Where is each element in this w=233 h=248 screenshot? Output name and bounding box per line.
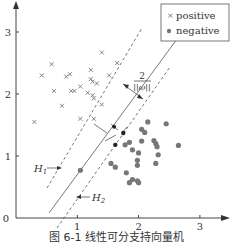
margin-denominator: ||ω||	[133, 83, 150, 92]
negative-point	[113, 165, 118, 170]
negative-point	[164, 121, 169, 126]
h1-line	[47, 28, 142, 188]
negative-point	[154, 144, 159, 149]
support-vector-negative	[113, 143, 117, 147]
legend: × positive negative	[161, 4, 229, 41]
sv-perp-1	[94, 124, 107, 133]
negative-point	[142, 130, 147, 135]
legend-dot-marker-icon	[167, 29, 171, 33]
support-vector-negative	[121, 131, 125, 135]
y-tick-label: 2	[5, 89, 11, 100]
negative-point	[145, 119, 150, 124]
negative-point	[156, 152, 161, 157]
negative-point	[139, 139, 144, 144]
svm-chart: 1231230 H1 H2 2 ||ω|| × positive negativ…	[0, 0, 233, 230]
legend-x-marker-icon: ×	[167, 11, 174, 20]
negative-point	[123, 142, 128, 147]
h2-label: H2	[91, 192, 106, 205]
negative-point	[176, 143, 181, 148]
positive-points	[32, 50, 119, 123]
legend-negative: negative	[176, 25, 220, 36]
ticks	[16, 32, 200, 218]
x-axis-arrow-icon	[221, 215, 230, 221]
negative-point	[153, 161, 158, 166]
negative-point	[136, 150, 141, 155]
negative-point	[135, 178, 140, 183]
arrow-head-icon	[76, 195, 81, 199]
negative-point	[130, 147, 135, 152]
hyperplane-line	[49, 35, 180, 213]
negative-point	[108, 161, 113, 166]
negative-point	[135, 163, 140, 168]
y-tick-label: 1	[5, 151, 11, 162]
h1-label: H1	[33, 163, 47, 176]
sv-perp-2	[105, 135, 116, 141]
margin-numerator: 2	[139, 71, 145, 81]
y-tick-label: 3	[5, 27, 11, 38]
origin-label: 0	[3, 213, 9, 224]
negative-point	[127, 180, 132, 185]
figure-caption: 图 6-1 线性可分支持向量机	[0, 228, 233, 244]
y-axis-arrow-icon	[13, 1, 19, 9]
negative-point	[135, 158, 140, 163]
negative-point	[78, 168, 83, 173]
negative-point	[124, 170, 129, 175]
support-vector-positive	[112, 125, 116, 129]
legend-positive: positive	[176, 10, 216, 21]
